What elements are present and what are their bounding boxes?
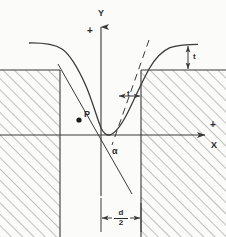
point-p-label: P xyxy=(84,110,90,119)
tangent-line-at-p xyxy=(58,64,132,194)
right-block xyxy=(141,70,226,237)
x-axis-plus-sign: + xyxy=(210,120,216,130)
diagram-canvas xyxy=(0,0,226,237)
half-gap-denominator: 2 xyxy=(114,219,128,227)
thickness-t-vertical-label: t xyxy=(193,53,196,61)
y-axis-label: Y xyxy=(98,9,104,18)
half-gap-fraction: d 2 xyxy=(114,209,128,227)
thickness-t-horizontal-label: t xyxy=(127,90,130,98)
y-axis-plus-sign: + xyxy=(87,26,93,36)
x-axis-label: X xyxy=(211,141,217,150)
half-gap-numerator: d xyxy=(114,209,128,217)
point-p-marker xyxy=(76,117,81,122)
angle-alpha-label: α xyxy=(112,147,118,156)
deflection-diagram: Y + + X P α t t d 2 xyxy=(0,0,226,237)
left-block xyxy=(0,70,60,237)
